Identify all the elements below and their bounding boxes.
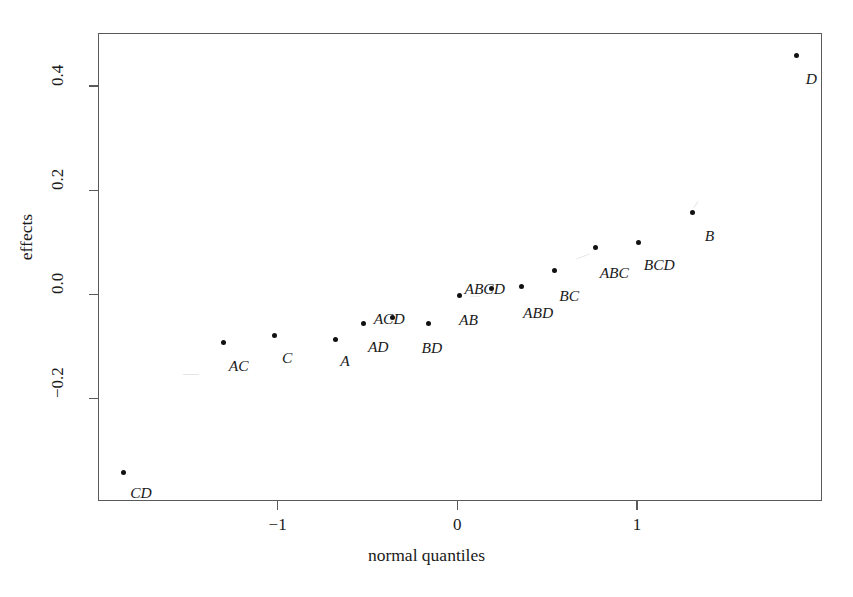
y-tick-mark — [89, 190, 98, 191]
scan-artifact — [183, 374, 199, 375]
x-tick-label: −1 — [269, 515, 287, 535]
plot-frame — [98, 33, 822, 501]
x-tick-label: 0 — [453, 515, 462, 535]
y-tick-mark — [89, 398, 98, 399]
x-tick-mark — [457, 501, 458, 510]
y-tick-mark — [89, 85, 98, 86]
figure-canvas: −0.20.00.20.4 −101 CDACCAADACDBDABABCDAB… — [0, 0, 853, 597]
x-tick-mark — [277, 501, 278, 510]
y-tick-mark — [89, 294, 98, 295]
x-tick-mark — [636, 501, 637, 510]
x-tick-label: 1 — [633, 515, 642, 535]
y-axis-title: effects — [16, 214, 37, 260]
x-axis-title: normal quantiles — [0, 545, 853, 566]
scan-artifact — [470, 296, 480, 297]
